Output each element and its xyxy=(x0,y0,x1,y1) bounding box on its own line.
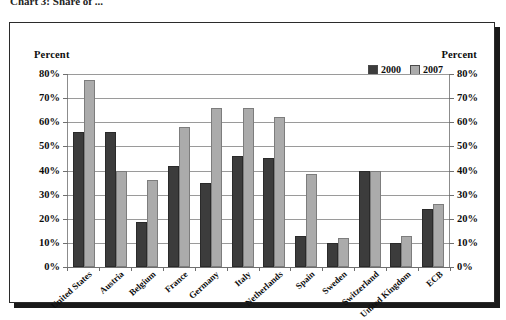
y-label-left-0: 0% xyxy=(44,262,60,272)
y-label-left-30: 30% xyxy=(39,190,60,200)
category-labels: United StatesAustriaBelgiumFranceGermany… xyxy=(67,269,450,320)
y-label-left-80: 80% xyxy=(39,69,60,79)
y-tick-right-30 xyxy=(449,195,454,196)
category-label: Spain xyxy=(294,269,317,291)
bar xyxy=(200,183,211,267)
y-label-left-40: 40% xyxy=(39,166,60,176)
category-label: ECB xyxy=(424,269,444,289)
bar xyxy=(370,171,381,268)
bar-group xyxy=(259,74,291,267)
bar xyxy=(422,209,433,267)
bar xyxy=(327,243,338,267)
category-label: United States xyxy=(49,269,94,311)
bar xyxy=(211,108,222,267)
bar xyxy=(116,171,127,268)
chart-figure-frame: Percent Percent 2000 2007 80%80%70%70%60… xyxy=(9,22,495,303)
bar-group xyxy=(68,74,100,267)
bar-group xyxy=(132,74,164,267)
y-label-right-60: 60% xyxy=(457,117,478,127)
bar xyxy=(147,180,158,267)
y-label-right-30: 30% xyxy=(457,190,478,200)
y-tick-right-10 xyxy=(449,243,454,244)
y-label-right-50: 50% xyxy=(457,141,478,151)
legend-swatch-2007-icon xyxy=(410,65,420,75)
category-label: Italy xyxy=(233,269,253,288)
bar-group xyxy=(386,74,418,267)
y-label-left-10: 10% xyxy=(39,238,60,248)
bar-group xyxy=(163,74,195,267)
y-tick-right-50 xyxy=(449,146,454,147)
y-label-right-0: 0% xyxy=(457,262,473,272)
category-label: Belgium xyxy=(127,269,157,298)
bar-group xyxy=(322,74,354,267)
bar xyxy=(105,132,116,267)
bar xyxy=(390,243,401,267)
y-label-right-40: 40% xyxy=(457,166,478,176)
y-label-left-50: 50% xyxy=(39,141,60,151)
y-tick-right-60 xyxy=(449,122,454,123)
y-tick-right-70 xyxy=(449,98,454,99)
bar xyxy=(433,204,444,267)
bar xyxy=(263,158,274,267)
bar xyxy=(136,222,147,267)
bar-groups xyxy=(68,74,449,267)
bar xyxy=(73,132,84,267)
bar xyxy=(84,80,95,267)
bar xyxy=(295,236,306,267)
plot-area: 80%80%70%70%60%60%50%50%40%40%30%30%20%2… xyxy=(67,74,450,267)
y-label-right-10: 10% xyxy=(457,238,478,248)
bar xyxy=(306,174,317,267)
bar xyxy=(243,108,254,267)
category-label: France xyxy=(162,269,189,294)
bar-group xyxy=(354,74,386,267)
category-label: Germany xyxy=(187,269,221,301)
bar-group xyxy=(227,74,259,267)
y-label-left-20: 20% xyxy=(39,214,60,224)
bar-group xyxy=(100,74,132,267)
y-label-right-80: 80% xyxy=(457,69,478,79)
clipped-caption-text: Chart 3: Share of ... xyxy=(10,0,340,7)
bar-group xyxy=(195,74,227,267)
legend-swatch-2000-icon xyxy=(368,65,378,75)
bar-group xyxy=(290,74,322,267)
y-label-right-70: 70% xyxy=(457,93,478,103)
bar-group xyxy=(417,74,449,267)
bar xyxy=(359,171,370,268)
bar xyxy=(168,166,179,267)
bar xyxy=(232,156,243,267)
y-label-right-20: 20% xyxy=(457,214,478,224)
bar xyxy=(179,127,190,267)
category-label: Sweden xyxy=(320,269,349,296)
right-axis-caption: Percent xyxy=(441,49,477,60)
clipped-caption-strip: Chart 3: Share of ... xyxy=(10,0,340,9)
bar xyxy=(274,117,285,267)
y-tick-right-80 xyxy=(449,74,454,75)
x-tick xyxy=(450,267,451,271)
y-label-left-70: 70% xyxy=(39,93,60,103)
y-label-left-60: 60% xyxy=(39,117,60,127)
left-axis-caption: Percent xyxy=(34,49,70,60)
bar xyxy=(338,238,349,267)
category-label: Austria xyxy=(97,269,125,296)
y-tick-right-40 xyxy=(449,171,454,172)
y-tick-right-20 xyxy=(449,219,454,220)
bar xyxy=(401,236,412,267)
